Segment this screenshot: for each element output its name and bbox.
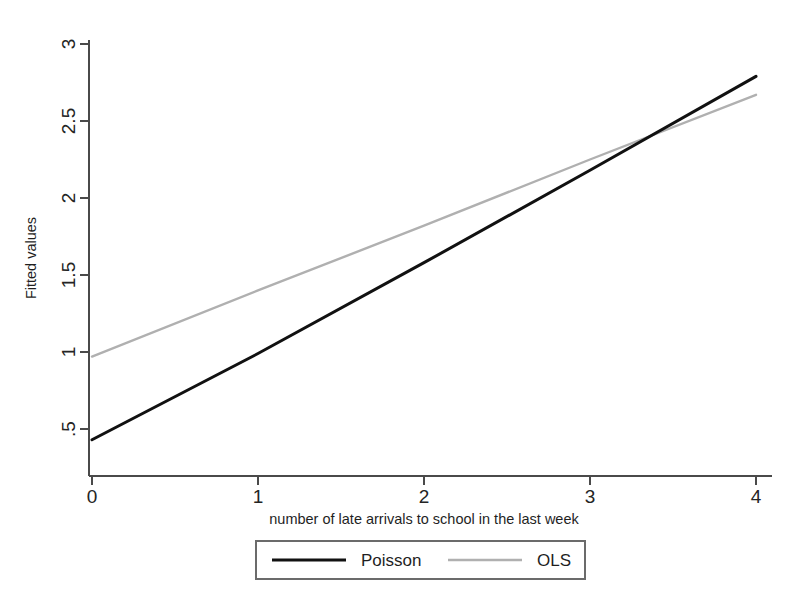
y-axis-title: Fitted values	[23, 217, 39, 299]
legend-label-poisson: Poisson	[361, 551, 421, 570]
x-tick-label-2: 2	[419, 486, 430, 507]
y-tick-label-1point5: 1.5	[58, 262, 79, 288]
y-tick-label-1: 1	[58, 347, 79, 358]
chart-figure: 3 2.5 2 1.5 1 .5 Fitted values 0 1 2 3 4…	[0, 0, 792, 608]
x-tick-label-3: 3	[585, 486, 596, 507]
chart-legend: Poisson OLS	[256, 541, 585, 579]
x-axis-title: number of late arrivals to school in the…	[269, 511, 579, 527]
x-tick-label-0: 0	[87, 486, 98, 507]
legend-label-ols: OLS	[537, 551, 571, 570]
y-tick-label-2point5: 2.5	[58, 108, 79, 134]
fitted-values-line-chart: 3 2.5 2 1.5 1 .5 Fitted values 0 1 2 3 4…	[0, 0, 792, 608]
y-tick-label-3: 3	[58, 39, 79, 50]
y-tick-label-2: 2	[58, 193, 79, 204]
y-tick-label-point5: .5	[58, 421, 79, 437]
x-tick-label-4: 4	[751, 486, 762, 507]
x-tick-label-1: 1	[253, 486, 264, 507]
